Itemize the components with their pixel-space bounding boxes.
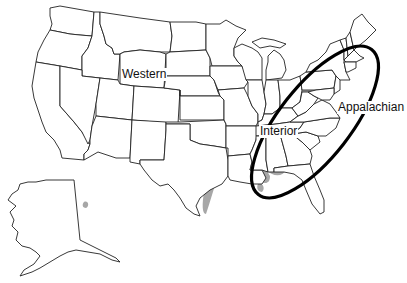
state-outlines	[8, 6, 376, 276]
state-indiana	[264, 80, 280, 114]
us-coal-regions-map: Western Interior Appalachian	[0, 0, 407, 283]
map-graphic	[0, 0, 407, 283]
state-south-dakota	[166, 50, 210, 76]
state-colorado	[132, 86, 180, 124]
state-montana	[100, 12, 172, 54]
region-label-appalachian: Appalachian	[337, 101, 405, 114]
region-label-interior: Interior	[259, 125, 298, 138]
state-north-dakota	[170, 22, 206, 52]
region-label-western: Western	[121, 68, 167, 81]
state-connecticut	[344, 62, 356, 72]
state-new-mexico	[130, 120, 166, 164]
state-alaska	[8, 180, 120, 276]
